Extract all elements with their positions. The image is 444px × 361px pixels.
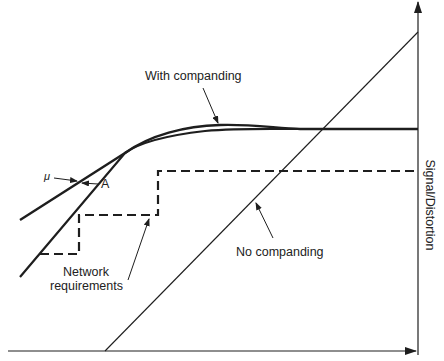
a-arrow bbox=[82, 183, 98, 184]
axes bbox=[8, 2, 418, 355]
no-companding-label: No companding bbox=[236, 246, 324, 259]
network-requirements-arrow bbox=[128, 219, 149, 280]
network-label-line2: requirements bbox=[50, 280, 122, 293]
mu-arrow bbox=[54, 178, 77, 181]
with-companding-arrow bbox=[203, 88, 218, 123]
no-companding-arrow bbox=[256, 203, 273, 238]
mu-label: μ bbox=[44, 171, 50, 182]
network-label-line1: Network bbox=[50, 266, 122, 279]
with-companding-label: With companding bbox=[145, 70, 242, 83]
a-label: A bbox=[101, 178, 109, 191]
diagram-canvas bbox=[0, 0, 444, 361]
a-law-curve bbox=[20, 129, 418, 277]
y-axis-label: Signal/Distortion bbox=[423, 140, 437, 270]
